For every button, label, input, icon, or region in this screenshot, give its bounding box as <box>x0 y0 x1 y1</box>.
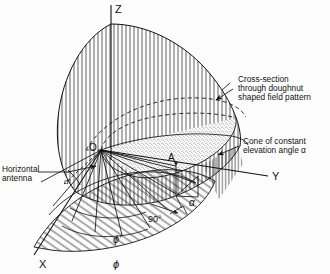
ground-annulus-region <box>34 170 215 252</box>
cone-callout: Cone of constant elevation angle α <box>243 136 306 155</box>
antenna-line-2: antenna <box>2 173 32 183</box>
x-axis-label: X <box>39 258 47 270</box>
diagram-canvas: Z Y X O A ϕ' ϕ α α' 90° Cross-section th… <box>0 0 330 274</box>
origin-label: O <box>89 142 97 153</box>
alpha-label: α <box>189 197 195 208</box>
horizontal-antenna-callout: Horizontal antenna <box>2 164 40 183</box>
phi-prime-label: ϕ' <box>113 233 122 245</box>
cone-line-2: elevation angle α <box>243 145 306 155</box>
right-angle-label: 90° <box>148 214 162 224</box>
cross-section-line-3: shaped field pattern <box>238 92 311 102</box>
point-a-label: A <box>168 152 175 163</box>
y-axis-label: Y <box>272 170 280 182</box>
phi-label: ϕ <box>113 258 119 270</box>
cross-section-callout: Cross-section through doughnut shaped fi… <box>238 74 311 102</box>
z-axis-label: Z <box>115 3 122 15</box>
alpha-prime-label: α' <box>64 177 71 186</box>
antenna-pattern-diagram: Z Y X O A ϕ' ϕ α α' 90° Cross-section th… <box>0 0 330 274</box>
